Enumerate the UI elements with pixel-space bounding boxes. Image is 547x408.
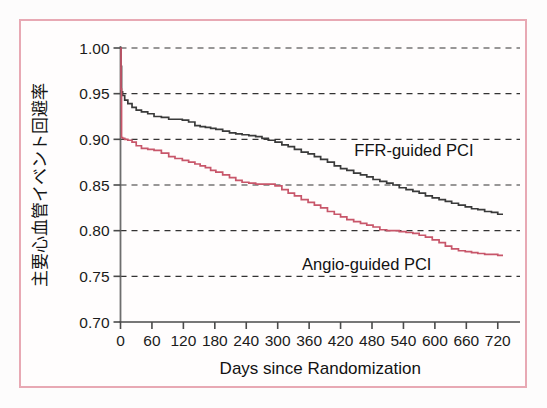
x-tick-label-420: 420 <box>328 332 354 349</box>
series-label-ffr-guided-pci: FFR-guided PCI <box>354 141 473 159</box>
y-tick-label-1: 1.00 <box>79 40 110 57</box>
series-label-angio-guided-pci: Angio-guided PCI <box>302 255 431 273</box>
series-curve-ffr-guided-pci <box>121 48 504 214</box>
axes-layer <box>114 46 521 329</box>
kaplan-meier-chart: 0.700.750.800.850.900.951.00060120180240… <box>0 0 547 408</box>
y-tick-label-0.8: 0.80 <box>79 222 110 239</box>
x-tick-label-0: 0 <box>116 332 125 349</box>
x-tick-label-660: 660 <box>453 332 479 349</box>
y-tick-label-0.9: 0.90 <box>79 131 110 148</box>
x-tick-label-60: 60 <box>143 332 161 349</box>
x-tick-label-360: 360 <box>296 332 322 349</box>
x-tick-label-180: 180 <box>202 332 228 349</box>
y-axis-title: 主要心血管イベント回避率 <box>30 83 50 287</box>
x-tick-label-480: 480 <box>359 332 385 349</box>
y-tick-label-0.7: 0.70 <box>79 314 110 331</box>
x-tick-label-240: 240 <box>233 332 259 349</box>
figure-root: 0.700.750.800.850.900.951.00060120180240… <box>0 0 547 408</box>
gridlines-layer <box>121 48 521 276</box>
x-tick-label-300: 300 <box>265 332 291 349</box>
y-tick-label-0.75: 0.75 <box>79 268 109 285</box>
y-tick-label-0.85: 0.85 <box>79 177 109 194</box>
x-tick-label-120: 120 <box>170 332 196 349</box>
x-tick-label-540: 540 <box>391 332 417 349</box>
y-tick-label-0.95: 0.95 <box>79 85 109 102</box>
x-tick-label-600: 600 <box>422 332 448 349</box>
x-tick-label-720: 720 <box>485 332 511 349</box>
x-axis-title: Days since Randomization <box>220 359 421 378</box>
